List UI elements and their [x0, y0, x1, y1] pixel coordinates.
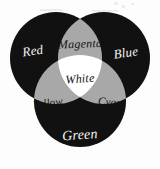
label-green: Green [62, 126, 98, 143]
venn-diagram-figure: Red Blue Green Magenta Yellow Cyan White [0, 0, 160, 169]
noise-speck [40, 9, 62, 11]
noise-speck [114, 2, 118, 5]
noise-speck [131, 3, 134, 5]
noise-speck [122, 5, 125, 8]
label-magenta: Magenta [57, 36, 103, 52]
label-cyan: Cyan [98, 94, 123, 108]
venn-diagram-canvas: Red Blue Green Magenta Yellow Cyan White [0, 0, 160, 169]
label-white: White [65, 71, 95, 87]
label-red: Red [20, 42, 44, 60]
noise-speck [92, 10, 118, 12]
